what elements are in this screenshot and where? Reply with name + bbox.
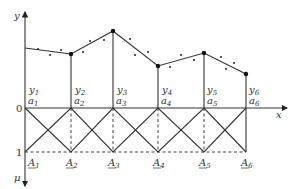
triangular-membership-functions (25, 108, 246, 152)
value-bars (71, 31, 246, 108)
x-axis-label: x (276, 109, 282, 120)
fuzzy-set-labels: A1 A2 A3 A4 A5 A6 (27, 157, 253, 170)
level-0-label: 0 (16, 103, 22, 114)
membership-dashed-verticals (71, 108, 204, 152)
fuzzy-membership-diagram: y x μ 0 1 y1 y2 y3 y4 y5 y6 a1 a2 a3 a4 … (0, 0, 293, 189)
y-axis-label: y (13, 10, 20, 21)
mu-axis-label: μ (14, 172, 21, 183)
level-1-label: 1 (16, 147, 22, 158)
piecewise-linear-curve (25, 31, 246, 74)
